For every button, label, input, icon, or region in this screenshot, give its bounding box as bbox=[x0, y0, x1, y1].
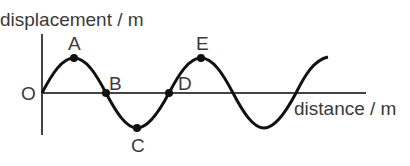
point-d-label: D bbox=[178, 73, 192, 94]
point-b-label: B bbox=[109, 73, 122, 94]
point-d bbox=[165, 89, 173, 97]
point-a bbox=[70, 54, 78, 62]
point-c-label: C bbox=[131, 135, 145, 156]
wave-diagram: displacement / m distance / m O A B C D … bbox=[0, 0, 410, 166]
point-c bbox=[133, 124, 141, 132]
point-e-label: E bbox=[196, 33, 209, 54]
y-axis-label: displacement / m bbox=[0, 9, 144, 30]
point-e bbox=[197, 54, 205, 62]
point-a-label: A bbox=[68, 33, 81, 54]
x-axis-label: distance / m bbox=[294, 98, 396, 119]
origin-label: O bbox=[21, 83, 36, 104]
